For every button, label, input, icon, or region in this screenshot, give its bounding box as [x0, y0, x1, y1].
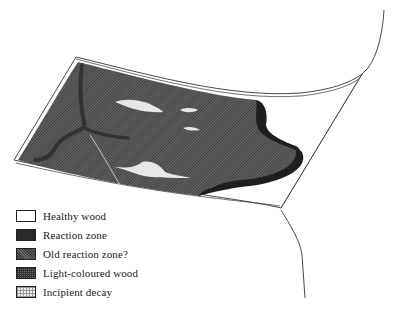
light-coloured-wood-swatch — [16, 267, 36, 279]
legend-label: Reaction zone — [43, 229, 107, 241]
legend: Healthy wood Reaction zone Old reaction … — [16, 206, 138, 301]
legend-item-healthy-wood: Healthy wood — [16, 206, 138, 225]
legend-item-incipient-decay: Incipient decay — [16, 282, 138, 301]
healthy-wood-swatch — [16, 210, 36, 222]
legend-label: Old reaction zone? — [43, 248, 128, 260]
legend-label: Light-coloured wood — [43, 267, 138, 279]
reaction-zone-swatch — [16, 229, 36, 241]
legend-label: Incipient decay — [43, 286, 112, 298]
legend-item-light-coloured-wood: Light-coloured wood — [16, 263, 138, 282]
legend-label: Healthy wood — [43, 210, 106, 222]
old-reaction-zone-swatch — [16, 248, 36, 260]
incipient-decay-swatch — [16, 286, 36, 298]
legend-item-old-reaction-zone: Old reaction zone? — [16, 244, 138, 263]
legend-item-reaction-zone: Reaction zone — [16, 225, 138, 244]
